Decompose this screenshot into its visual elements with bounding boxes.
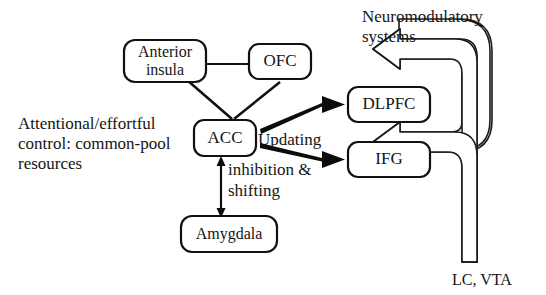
node-dlpfc[interactable]: DLPFC xyxy=(348,87,430,122)
node-anterior-insula-label-line1: Anterior xyxy=(138,43,193,60)
edge-label-inhibition-line1: inhibition & xyxy=(228,160,312,179)
edge-group-neuromodulatory xyxy=(373,19,492,262)
node-ifg[interactable]: IFG xyxy=(348,142,430,177)
edge-ofc-acc xyxy=(234,82,280,119)
node-amygdala-label: Amygdala xyxy=(196,225,263,243)
caption-attentional-control-line3: resources xyxy=(18,154,82,173)
node-acc-label: ACC xyxy=(208,128,243,147)
node-ofc-label: OFC xyxy=(263,51,296,70)
node-anterior-insula[interactable]: Anterior insula xyxy=(124,40,206,82)
edge-insula-acc xyxy=(187,80,232,119)
diagram-svg: Anterior insula OFC ACC Amygdala DLP xyxy=(0,0,546,295)
edge-acc-dlpfc xyxy=(260,96,345,134)
node-ofc[interactable]: OFC xyxy=(249,44,311,79)
node-acc[interactable]: ACC xyxy=(194,120,256,156)
node-amygdala[interactable]: Amygdala xyxy=(181,216,277,252)
edge-label-inhibition-line2: shifting xyxy=(228,181,280,200)
diagram-canvas: Anterior insula OFC ACC Amygdala DLP xyxy=(0,0,546,295)
node-anterior-insula-label-line2: insula xyxy=(146,61,184,78)
label-neuromodulatory-line2: systems xyxy=(362,27,416,46)
arrowhead-up-amygdala-acc xyxy=(217,156,226,166)
caption-attentional-control-line1: Attentional/effortful xyxy=(18,114,156,133)
label-lc-vta: LC, VTA xyxy=(452,271,512,288)
caption-attentional-control-line2: control: common-pool xyxy=(18,134,171,153)
label-neuromodulatory-line1: Neuromodulatory xyxy=(362,7,483,26)
edge-label-updating: Updating xyxy=(258,130,322,149)
node-dlpfc-label: DLPFC xyxy=(363,94,416,113)
node-ifg-label: IFG xyxy=(375,149,402,168)
